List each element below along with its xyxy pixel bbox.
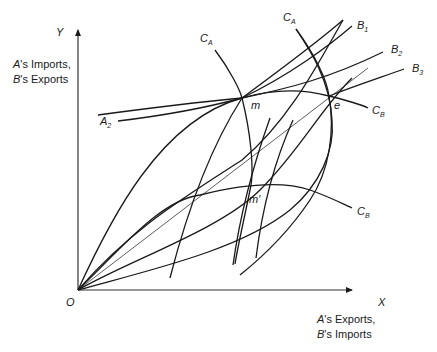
point-e-label: e [334,100,340,111]
cb-upper-label: CB [372,105,385,116]
y-axis-title: A's Imports, B's Exports [13,57,71,87]
x-axis-title-line1: A's Exports, [317,312,375,327]
ca-left-label: CA [200,33,213,44]
x-axis-title: A's Exports, B's Imports [317,312,375,342]
x-axis-letter: X [378,297,385,308]
ca-right-label: CA [283,12,296,23]
y-axis-letter: Y [56,27,63,38]
trade-indifference-b3 [329,69,404,96]
cb-lower-label: CB [357,206,370,217]
point-m-prime-label: m′ [249,194,260,205]
b3-label: B3 [412,63,423,74]
cb-lower-curve [78,185,352,290]
y-axis-title-line1: A's Imports, [13,57,71,72]
cb-upper-curve [242,91,368,108]
y-axis-title-line2: B's Exports [13,72,71,87]
point-m-label: m [251,100,260,111]
a2-label: A2 [100,116,111,127]
b2-label: B2 [391,44,402,55]
trade-indifference-b2 [242,52,383,98]
b1-label: B1 [357,20,368,31]
x-axis-title-line2: B's Imports [317,327,375,342]
reference-ray [78,68,368,290]
origin-label: O [66,297,75,308]
offer-curve-upper-lower-arc [78,20,343,290]
